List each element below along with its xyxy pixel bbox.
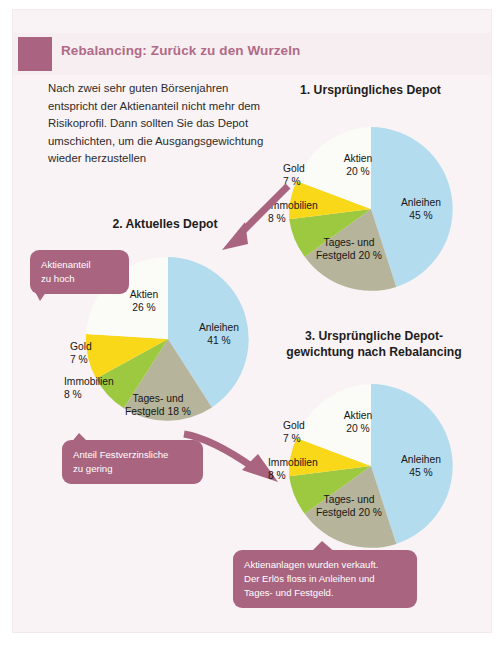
chart-3-title: 3. Ursprüngliche Depot- gewichtung nach … [268, 328, 480, 360]
chart-1-label-anleihen: Anleihen 45 % [390, 196, 452, 223]
chart-3-label-gold: Gold 7 % [283, 419, 305, 446]
callout-1-line-1: Aktienanteil [41, 258, 119, 272]
chart-2-label-gold: Gold 7 % [70, 340, 92, 367]
callout-3-line-1: Aktienanlagen wurden verkauft. [244, 558, 407, 572]
callout-1-line-2: zu hoch [41, 272, 119, 286]
chart-3-title-line-2: gewichtung nach Rebalancing [268, 344, 480, 360]
chart-2-title: 2. Aktuelles Depot [65, 216, 265, 232]
callout-1-tail [33, 288, 49, 301]
chart-1-label-tages-festgeld: Tages- und Festgeld 20 % [305, 236, 393, 263]
callout-3-line-2: Der Erlös floss in Anleihen und [244, 572, 407, 586]
chart-3-label-aktien: Aktien 20 % [327, 409, 389, 436]
page-title: Rebalancing: Zurück zu den Wurzeln [61, 43, 300, 58]
callout-aktienanlagen-verkauft: Aktienanlagen wurden verkauft. Der Erlös… [233, 550, 417, 608]
callout-3-line-3: Tages- und Festgeld. [244, 586, 407, 600]
chart-3-label-immobilien: Immobilien 8 % [268, 456, 318, 483]
chart-3-label-anleihen: Anleihen 45 % [390, 453, 452, 480]
header-accent-square [18, 37, 52, 71]
chart-2-label-immobilien: Immobilien 8 % [64, 375, 114, 402]
callout-2-tail [70, 433, 90, 444]
chart-3-label-tages-festgeld: Tages- und Festgeld 20 % [305, 493, 393, 520]
chart-2-label-anleihen: Anleihen 41 % [188, 321, 250, 348]
chart-1-label-aktien: Aktien 20 % [327, 152, 389, 179]
chart-3-title-line-1: 3. Ursprüngliche Depot- [268, 328, 480, 344]
infographic-page: Rebalancing: Zurück zu den Wurzeln Nach … [0, 0, 504, 653]
callout-2-line-2: zu gering [73, 462, 193, 476]
callout-2-line-1: Anteil Festverzinsliche [73, 448, 193, 462]
chart-1-title: 1. Ursprüngliches Depot [268, 82, 473, 98]
intro-paragraph: Nach zwei sehr guten Börsenjahren entspr… [48, 80, 270, 168]
chart-2-label-tages-festgeld: Tages- und Festgeld 18 % [112, 392, 204, 419]
